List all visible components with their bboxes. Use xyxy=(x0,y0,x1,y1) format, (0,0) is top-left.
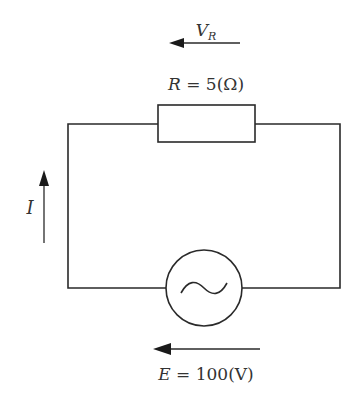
source-emf-arrow xyxy=(153,343,260,355)
wire-top-right xyxy=(242,124,340,288)
resistor xyxy=(158,105,255,142)
current-label: I xyxy=(25,197,34,218)
wire-top-left xyxy=(68,124,166,288)
source-label: E = 100(V) xyxy=(157,364,253,384)
circuit-diagram: VR R = 5(Ω) I E = 100(V) xyxy=(0,0,357,395)
resistor-label: R = 5(Ω) xyxy=(167,74,244,94)
circuit-wires xyxy=(68,124,340,288)
ac-voltage-source xyxy=(166,250,242,326)
voltage-resistor-label: VR xyxy=(196,20,217,43)
arrowhead-left-icon xyxy=(169,38,184,48)
sine-wave-icon xyxy=(181,283,227,294)
arrowhead-left-icon xyxy=(153,343,171,355)
current-arrow xyxy=(39,170,49,243)
arrowhead-up-icon xyxy=(39,170,49,186)
